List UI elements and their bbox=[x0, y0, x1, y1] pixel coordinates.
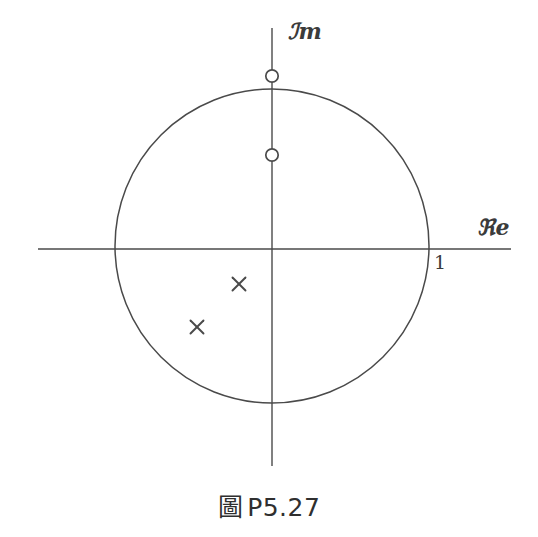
complex-plane-plot bbox=[0, 0, 538, 537]
unit-tick-label: 1 bbox=[434, 251, 446, 273]
figure-caption-id: P5.27 bbox=[247, 493, 320, 522]
real-axis-label: ℜe bbox=[477, 214, 510, 240]
figure-caption: 圖P5.27 bbox=[0, 487, 538, 523]
zero-marker-1 bbox=[266, 70, 278, 82]
imaginary-axis-label: ℐm bbox=[288, 18, 322, 44]
zero-marker-2 bbox=[266, 149, 278, 161]
pole-marker-1 bbox=[233, 278, 246, 291]
figure-caption-cjk: 圖 bbox=[218, 493, 244, 522]
pole-zero-figure: ℐm ℜe 1 圖P5.27 bbox=[0, 0, 538, 537]
pole-marker-2 bbox=[191, 321, 204, 334]
